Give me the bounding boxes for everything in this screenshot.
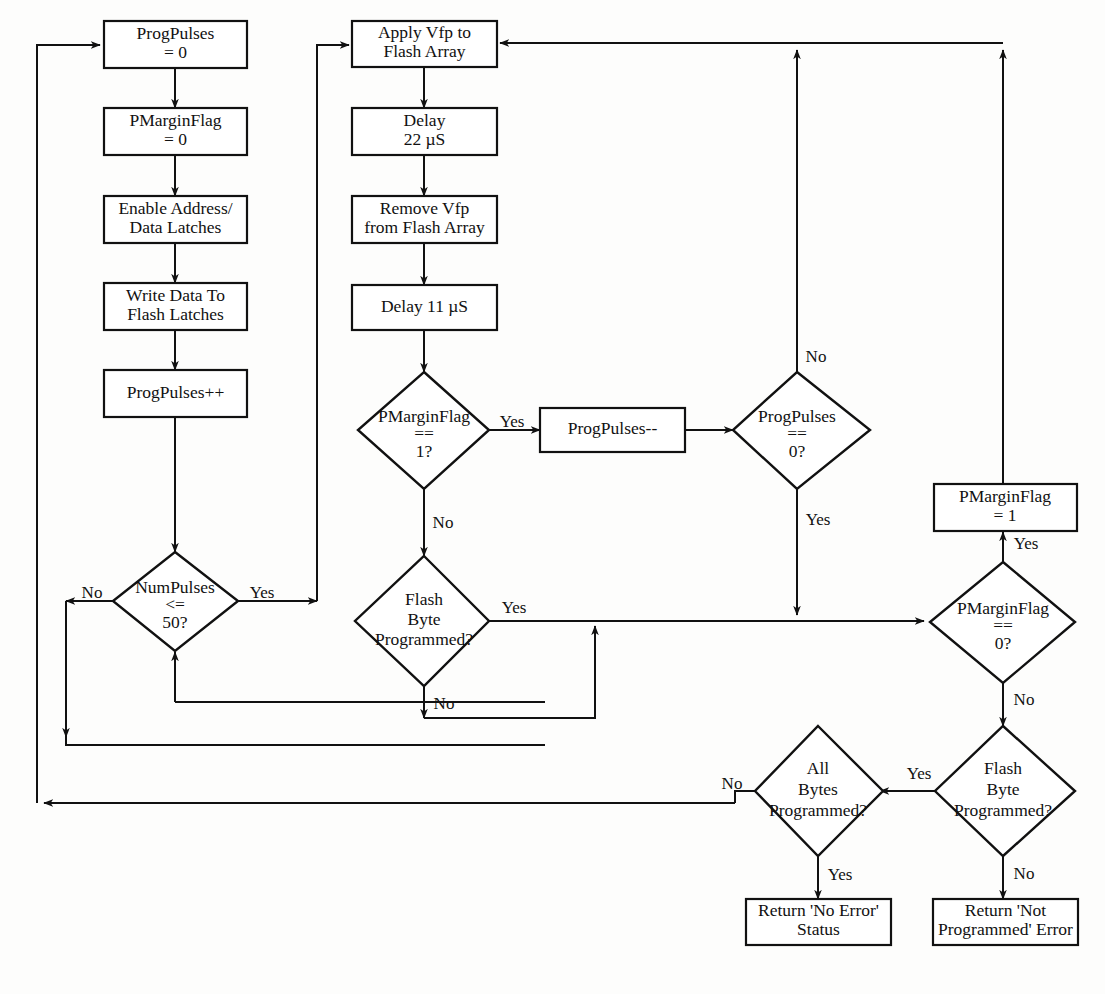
flowchart-canvas: ProgPulses = 0 PMarginFlag = 0 Enable Ad… — [0, 0, 1105, 994]
node-label-line2: Byte — [407, 609, 440, 629]
node-prog-pulses-is-zero-decision[interactable]: ProgPulses == 0? — [733, 372, 870, 489]
edge-label-pmarginone-yes: Yes — [500, 412, 525, 431]
node-label-line3: 50? — [162, 612, 188, 632]
node-label-line2: = 0 — [164, 129, 187, 149]
edge-label-flashright-no: No — [1014, 864, 1035, 883]
node-label-line1: All — [807, 758, 830, 778]
node-label-line1: Delay 11 µS — [381, 296, 468, 316]
node-label-line1: ProgPulses++ — [127, 382, 225, 402]
node-label-line3: Programmed? — [375, 629, 473, 649]
node-label-line3: Programmed? — [769, 800, 867, 820]
edge-label-allbytes-yes: Yes — [828, 865, 853, 884]
edge-label-flashmid-no: No — [434, 694, 455, 713]
edge-label-pmarginzero-no: No — [1014, 690, 1035, 709]
node-pmargin-set-one[interactable]: PMarginFlag = 1 — [934, 484, 1077, 531]
node-all-bytes-decision[interactable]: All Bytes Programmed? — [755, 726, 883, 856]
node-return-no-error[interactable]: Return 'No Error' Status — [746, 899, 891, 945]
node-flash-byte-right-decision[interactable]: Flash Byte Programmed? — [935, 726, 1075, 856]
node-label-line2: = 0 — [164, 42, 187, 62]
node-apply-vfp[interactable]: Apply Vfp to Flash Array — [352, 21, 497, 67]
node-label-line2: from Flash Array — [364, 217, 485, 237]
node-label-line2: = 1 — [994, 505, 1017, 525]
node-label-line1: ProgPulses-- — [568, 418, 658, 438]
edge-label-pmarginzero-yes: Yes — [1014, 534, 1039, 553]
node-label-line2: Status — [797, 919, 840, 939]
node-label-line3: 0? — [995, 633, 1012, 653]
node-label-line1: PMarginFlag — [129, 110, 221, 130]
node-label-line2: == — [414, 423, 434, 443]
node-label-line2: <= — [165, 594, 185, 614]
node-label-line1: Return 'Not — [965, 900, 1047, 920]
node-label-line1: Return 'No Error' — [758, 900, 879, 920]
edge-label-flashmid-yes: Yes — [502, 598, 527, 617]
edge-label-progpulseszero-no: No — [806, 347, 827, 366]
node-label-line1: Flash — [984, 758, 1022, 778]
node-flash-byte-mid-decision[interactable]: Flash Byte Programmed? — [355, 556, 489, 686]
edge-numpulses-yes-up — [317, 45, 349, 601]
node-label-line2: Byte — [986, 779, 1019, 799]
node-label-line3: 1? — [416, 441, 433, 461]
node-label-line2: Flash Array — [383, 41, 465, 61]
edge-label-flashright-yes: Yes — [907, 764, 932, 783]
node-label-line3: Programmed? — [954, 800, 1052, 820]
node-label-line2: 22 µS — [404, 129, 446, 149]
edge-label-numpulses-no: No — [82, 583, 103, 602]
edge-label-progpulseszero-yes: Yes — [806, 510, 831, 529]
node-pmargin-is-zero-decision[interactable]: PMarginFlag == 0? — [930, 562, 1075, 683]
node-label-line1: Enable Address/ — [118, 198, 232, 218]
node-pmargin-is-one-decision[interactable]: PMarginFlag == 1? — [358, 372, 489, 489]
node-label-line1: ProgPulses — [137, 23, 215, 43]
node-write-data[interactable]: Write Data To Flash Latches — [104, 283, 247, 330]
node-label-line2: == — [993, 615, 1013, 635]
node-pmargin-zero[interactable]: PMarginFlag = 0 — [104, 108, 247, 155]
node-label-line2: Flash Latches — [127, 304, 224, 324]
node-delay-22[interactable]: Delay 22 µS — [352, 108, 497, 155]
node-label-line2: == — [787, 423, 807, 443]
node-label-line1: Remove Vfp — [380, 198, 470, 218]
edge-label-allbytes-no: No — [722, 774, 743, 793]
node-label-line1: Delay — [404, 110, 446, 130]
edge-numpulses-no-to-left-bus — [66, 737, 545, 745]
node-prog-pulses-zero[interactable]: ProgPulses = 0 — [104, 21, 247, 68]
node-prog-pulses-inc[interactable]: ProgPulses++ — [104, 370, 247, 417]
node-delay-11[interactable]: Delay 11 µS — [352, 285, 497, 330]
node-label-line2: Bytes — [798, 779, 838, 799]
node-label-line2: Data Latches — [130, 217, 222, 237]
node-label-line1: Write Data To — [126, 285, 225, 305]
node-label-line2: Programmed' Error — [938, 919, 1073, 939]
node-prog-pulses-dec[interactable]: ProgPulses-- — [540, 408, 685, 452]
node-return-not-programmed[interactable]: Return 'Not Programmed' Error — [933, 899, 1078, 945]
node-label-line3: 0? — [789, 441, 806, 461]
edge-left-spine-up — [37, 45, 100, 803]
node-num-pulses-decision[interactable]: NumPulses <= 50? — [113, 552, 238, 651]
edge-label-pmarginone-no: No — [433, 513, 454, 532]
node-label-line1: Apply Vfp to — [378, 22, 471, 42]
node-remove-vfp[interactable]: Remove Vfp from Flash Array — [352, 196, 497, 243]
edge-label-numpulses-yes: Yes — [250, 583, 275, 602]
node-label-line1: PMarginFlag — [959, 486, 1051, 506]
node-enable-latches[interactable]: Enable Address/ Data Latches — [104, 196, 247, 243]
node-label-line1: Flash — [405, 589, 443, 609]
